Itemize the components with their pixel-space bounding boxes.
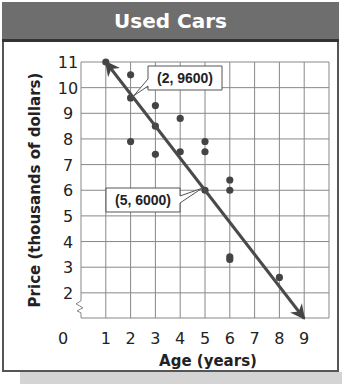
y-axis-label: Price (thousands of dollars) [26,73,44,308]
annotation-label: (5, 6000) [115,192,171,208]
x-tick-label: 6 [225,329,235,348]
data-point [226,256,233,263]
x-tick-label: 1 [101,329,111,348]
data-point [127,138,134,145]
data-point [152,102,159,109]
x-tick-label: 5 [200,329,210,348]
y-tick-label: 6 [63,181,73,200]
data-point [152,151,159,158]
y-tick-label: 2 [63,284,73,303]
x-tick-label: 2 [126,329,136,348]
y-tick-label: 8 [63,130,73,149]
x-axis-label: Age (years) [159,352,257,370]
data-point [177,115,184,122]
scatter-plot: 1110987654320123456789Age (years)Price (… [0,0,342,390]
data-point [201,148,208,155]
x-tick-label: 3 [150,329,160,348]
data-point [276,274,283,281]
x-tick-label: 7 [250,329,260,348]
x-tick-label: 4 [175,329,185,348]
y-tick-label: 4 [63,233,73,252]
y-tick-label: 7 [63,156,73,175]
y-tick-label: 5 [63,207,73,226]
data-point [226,187,233,194]
data-point [127,71,134,78]
annotation-label: (2, 9600) [157,70,213,86]
x-tick-label: 8 [274,329,284,348]
y-tick-label: 9 [63,104,73,123]
y-zero-label: 0 [58,329,68,348]
y-tick-label: 10 [58,79,78,98]
y-tick-label: 3 [63,258,73,277]
data-point [226,176,233,183]
x-tick-label: 9 [299,329,309,348]
y-tick-label: 11 [58,53,78,72]
data-point [201,138,208,145]
